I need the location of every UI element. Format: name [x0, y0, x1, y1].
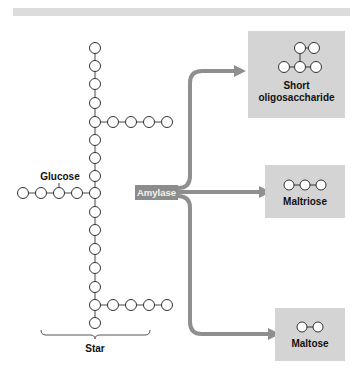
product-label-oligosaccharide: oligosaccharide: [248, 92, 345, 103]
product-label-maltose: Maltose: [275, 338, 345, 349]
starch-diagram-graphic: [0, 0, 356, 372]
product-label-maltriose: Maltriose: [265, 196, 345, 207]
glucose-label: Glucose: [38, 171, 82, 182]
amylase-label: Amylase: [135, 185, 178, 200]
arrow-to-oligosaccharide: [178, 71, 234, 188]
product-label-short: Short: [248, 80, 345, 91]
product-box-maltriose: [265, 165, 345, 218]
starch-label: Star: [75, 343, 115, 354]
maltriose-molecule: [284, 180, 326, 190]
product-box-maltose: [275, 308, 345, 361]
starch-brace: [41, 330, 150, 339]
arrow-to-maltose: [178, 196, 268, 334]
arrowhead-icon: [234, 65, 246, 77]
